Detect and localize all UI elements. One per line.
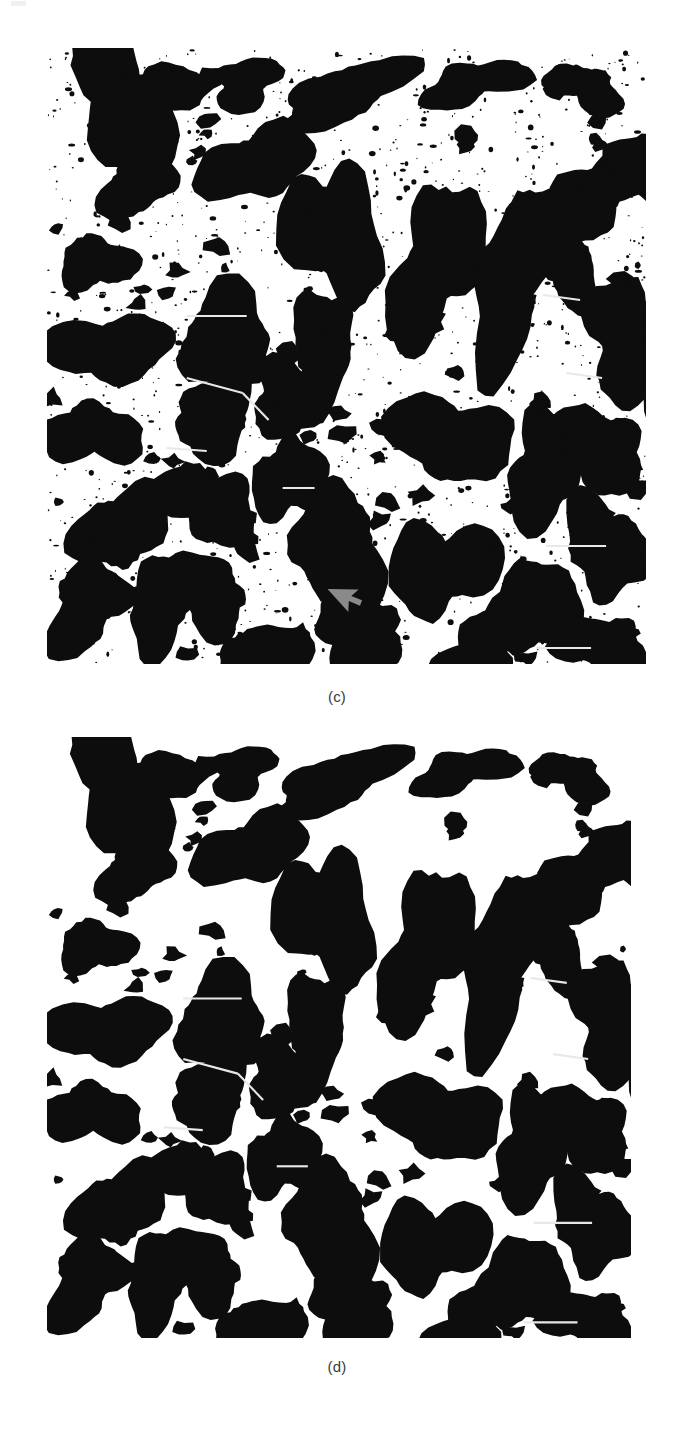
- noise-speckle: [396, 196, 402, 201]
- noise-speckle: [133, 495, 134, 497]
- noise-speckle: [229, 636, 231, 638]
- noise-speckle: [87, 432, 89, 433]
- noise-speckle: [608, 63, 610, 64]
- noise-speckle: [542, 498, 544, 499]
- noise-speckle: [599, 560, 600, 562]
- noise-speckle: [580, 131, 582, 132]
- noise-speckle: [118, 537, 123, 540]
- noise-speckle: [145, 611, 147, 613]
- noise-speckle: [187, 53, 189, 55]
- noise-speckle: [405, 309, 410, 313]
- noise-speckle: [50, 291, 56, 293]
- noise-speckle: [212, 394, 216, 396]
- noise-speckle: [440, 428, 444, 432]
- noise-speckle: [148, 69, 149, 70]
- noise-speckle: [504, 489, 509, 491]
- noise-speckle: [322, 193, 324, 194]
- noise-speckle: [198, 613, 200, 615]
- noise-speckle: [116, 355, 120, 360]
- noise-speckle: [304, 70, 306, 72]
- noise-speckle: [418, 550, 420, 551]
- noise-speckle: [599, 397, 601, 398]
- noise-speckle: [299, 230, 301, 232]
- noise-speckle: [178, 350, 181, 355]
- noise-speckle: [422, 49, 423, 50]
- noise-speckle: [119, 244, 121, 246]
- noise-speckle: [289, 643, 291, 645]
- noise-speckle: [108, 445, 110, 446]
- noise-speckle: [192, 639, 197, 644]
- noise-speckle: [147, 415, 149, 417]
- noise-speckle: [523, 68, 525, 70]
- noise-speckle: [206, 238, 207, 239]
- noise-speckle: [569, 531, 572, 534]
- noise-speckle: [348, 537, 349, 539]
- noise-speckle: [503, 533, 505, 534]
- noise-speckle: [580, 454, 582, 456]
- noise-speckle: [259, 583, 261, 585]
- noise-speckle: [301, 90, 306, 92]
- noise-speckle: [465, 81, 467, 83]
- noise-speckle: [341, 460, 343, 461]
- noise-speckle: [521, 577, 523, 579]
- noise-speckle: [321, 582, 323, 583]
- noise-speckle: [506, 339, 507, 341]
- noise-speckle: [475, 446, 477, 448]
- noise-speckle: [292, 661, 293, 663]
- noise-speckle: [67, 82, 69, 83]
- noise-speckle: [138, 594, 140, 596]
- noise-speckle: [568, 99, 570, 101]
- noise-speckle: [175, 340, 182, 345]
- noise-speckle: [520, 584, 522, 585]
- noise-speckle: [373, 540, 378, 546]
- noise-speckle: [47, 270, 49, 271]
- noise-speckle: [638, 478, 640, 479]
- noise-speckle: [476, 649, 478, 651]
- noise-speckle: [69, 641, 70, 642]
- noise-speckle: [305, 481, 307, 482]
- noise-speckle: [539, 505, 541, 506]
- noise-speckle: [493, 655, 494, 656]
- noise-speckle: [615, 387, 620, 389]
- noise-speckle: [541, 67, 543, 68]
- noise-speckle: [332, 556, 334, 558]
- noise-speckle: [180, 540, 182, 542]
- noise-speckle: [419, 493, 420, 495]
- noise-speckle: [431, 394, 433, 396]
- noise-speckle: [332, 517, 339, 520]
- noise-speckle: [527, 151, 529, 152]
- noise-speckle: [312, 76, 317, 78]
- noise-speckle: [173, 360, 175, 361]
- noise-speckle: [526, 92, 528, 94]
- noise-speckle: [606, 341, 608, 342]
- noise-speckle: [622, 452, 624, 454]
- noise-speckle: [457, 532, 459, 533]
- noise-speckle: [271, 349, 273, 350]
- noise-speckle: [537, 355, 539, 357]
- noise-speckle: [348, 293, 349, 295]
- noise-speckle: [72, 622, 74, 624]
- noise-speckle: [291, 416, 293, 417]
- noise-speckle: [610, 659, 611, 661]
- noise-speckle: [292, 582, 297, 586]
- noise-speckle: [619, 61, 621, 62]
- noise-speckle: [356, 506, 358, 507]
- noise-speckle: [643, 276, 645, 278]
- noise-speckle: [333, 158, 334, 160]
- noise-speckle: [151, 302, 152, 303]
- noise-speckle: [237, 191, 239, 193]
- noise-speckle: [471, 263, 474, 268]
- noise-speckle: [497, 462, 499, 464]
- noise-speckle: [419, 241, 420, 243]
- noise-speckle: [170, 523, 171, 525]
- noise-speckle: [156, 461, 157, 463]
- grain-fragment: [266, 390, 290, 409]
- noise-speckle: [606, 565, 613, 570]
- noise-speckle: [228, 285, 229, 286]
- noise-speckle: [266, 117, 268, 119]
- noise-speckle: [282, 425, 284, 426]
- noise-speckle: [268, 533, 269, 535]
- noise-speckle: [322, 454, 324, 456]
- noise-speckle: [624, 459, 626, 460]
- noise-speckle: [103, 608, 104, 610]
